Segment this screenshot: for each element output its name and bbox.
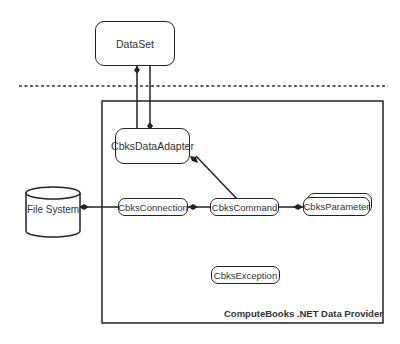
provider-container-label: ComputeBooks .NET Data Provider bbox=[224, 308, 383, 319]
parameter-node[interactable]: CbksParameter bbox=[303, 197, 370, 216]
diagram-connectors bbox=[0, 0, 400, 344]
connection-node[interactable]: CbksConnection bbox=[118, 198, 188, 216]
exception-node[interactable]: CbksException bbox=[211, 266, 280, 284]
data-adapter-label: CbksDataAdapter bbox=[111, 140, 194, 152]
diamond-icon bbox=[134, 66, 140, 74]
data-adapter-node[interactable]: CbksDataAdapter bbox=[115, 128, 190, 164]
diamond-icon bbox=[188, 204, 198, 210]
exception-label: CbksException bbox=[214, 270, 277, 281]
connection-label: CbksConnection bbox=[118, 202, 188, 213]
dataset-node[interactable]: DataSet bbox=[95, 21, 175, 66]
edge-command-adapter bbox=[196, 156, 237, 199]
command-label: CbksCommand bbox=[212, 202, 277, 213]
file-system-label: File System bbox=[26, 204, 80, 215]
parameter-label: CbksParameter bbox=[304, 201, 370, 212]
dataset-label: DataSet bbox=[116, 38, 154, 50]
command-node[interactable]: CbksCommand bbox=[210, 198, 279, 216]
diamond-icon bbox=[293, 204, 303, 210]
